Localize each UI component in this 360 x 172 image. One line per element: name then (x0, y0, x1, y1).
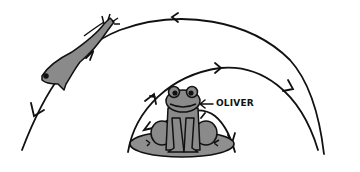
frog-jump-diagram: OLIVER (0, 0, 360, 172)
label-arrow-icon (200, 100, 213, 108)
sitting-frog (146, 87, 219, 153)
leaping-frog (42, 14, 120, 90)
diagram-svg (0, 0, 360, 172)
oliver-label: OLIVER (216, 98, 254, 108)
